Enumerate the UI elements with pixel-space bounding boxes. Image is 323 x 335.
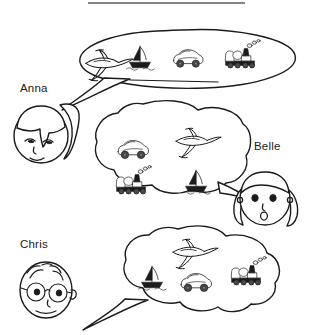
chris-name-label: Chris xyxy=(20,238,48,250)
anna-thought-bubble xyxy=(62,30,295,110)
scene-canvas: Anna xyxy=(0,0,323,335)
anna-name-label: Anna xyxy=(20,82,48,94)
anna-avatar xyxy=(14,104,79,163)
illustration-figure: Anna xyxy=(0,0,323,335)
chris-avatar xyxy=(20,262,76,318)
belle-avatar xyxy=(234,172,298,226)
belle-name-label: Belle xyxy=(254,140,281,152)
